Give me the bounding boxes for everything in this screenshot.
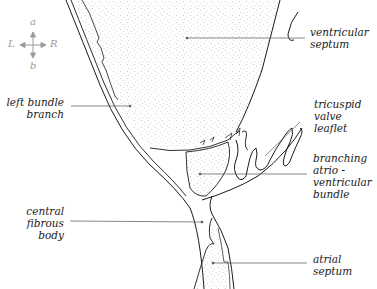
compass-up-label: a	[30, 16, 36, 27]
compass-down-label: b	[30, 60, 36, 71]
compass-right-label: R	[50, 38, 58, 49]
label-tricuspid-valve-leaflet: tricuspid valve leaflet	[314, 98, 361, 134]
tricuspid-leaflet-inner	[242, 131, 248, 150]
label-central-fibrous-body: central fibrous body	[4, 205, 64, 241]
ventricular-septum-region	[82, 0, 280, 148]
label-left-bundle-branch: left bundle branch	[6, 96, 64, 120]
compass-left-label: L	[8, 38, 15, 49]
leader-central-fibrous-body	[70, 221, 202, 222]
tricuspid-leaflet-outline	[234, 128, 302, 180]
septum-curl-mark	[288, 12, 298, 40]
label-ventricular-septum: ventricular septum	[310, 26, 369, 50]
label-atrial-septum: atrial septum	[313, 253, 352, 277]
label-branching-av-bundle: branching atrio - ventricular bundle	[313, 152, 372, 200]
orientation-compass	[20, 32, 46, 58]
